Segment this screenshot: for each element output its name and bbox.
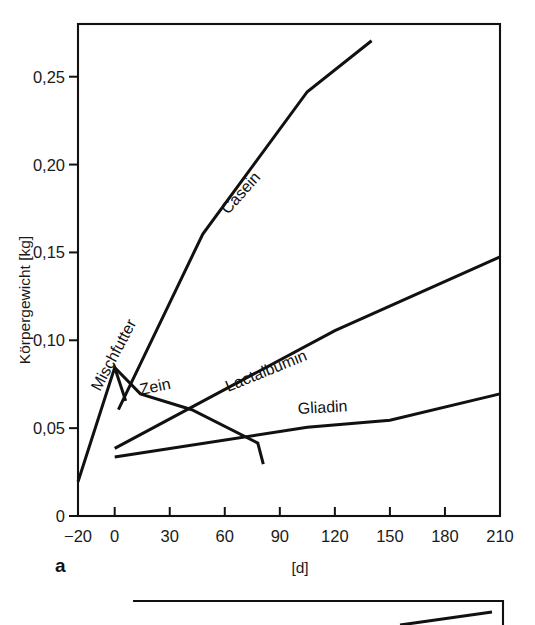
x-tick-label: 120 (321, 527, 349, 545)
data-curves (78, 41, 500, 482)
plot-frame-panel-a (78, 24, 500, 516)
scientific-line-chart: 00,050,100,150,200,25 −20030609012015018… (0, 0, 535, 625)
y-tick-label: 0,15 (33, 243, 65, 261)
bottom-panel-fragment (133, 601, 503, 625)
x-tick-label: 30 (161, 527, 179, 545)
x-tick-label: 90 (271, 527, 289, 545)
y-tick-label: 0,10 (33, 331, 65, 349)
curve-label-gliadin: Gliadin (297, 397, 348, 417)
bottom-panel-curve-fragment (400, 612, 492, 625)
x-tick-label: −20 (64, 527, 92, 545)
y-tick-label: 0 (56, 507, 65, 525)
curve-label-zein: Zein (138, 375, 172, 398)
bottom-panel-frame (133, 601, 503, 625)
x-tick-label: 210 (486, 527, 514, 545)
figure-root: 00,050,100,150,200,25 −20030609012015018… (0, 0, 535, 625)
x-tick-label: 0 (110, 527, 119, 545)
curve-lactalbumin (115, 257, 500, 449)
y-axis-ticks: 00,050,100,150,200,25 (33, 68, 78, 525)
y-tick-label: 0,25 (33, 68, 65, 86)
x-tick-label: 180 (431, 527, 459, 545)
panel-label-a: a (55, 555, 66, 576)
y-tick-label: 0,20 (33, 156, 65, 174)
x-tick-label: 60 (216, 527, 234, 545)
curve-casein (118, 41, 371, 410)
x-tick-label: 150 (376, 527, 404, 545)
x-axis-title: [d] (291, 559, 308, 576)
curve-label-casein: Casein (218, 169, 264, 217)
curve-label-lactalbumin: Lactalbumin (223, 347, 309, 395)
x-axis-ticks: −200306090120150180210 (64, 507, 514, 545)
y-tick-label: 0,05 (33, 419, 65, 437)
y-axis-title: Körpergewicht [kg] (16, 236, 33, 364)
